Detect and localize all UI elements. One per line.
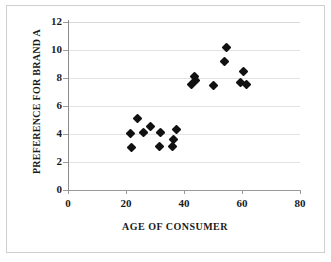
x-axis-tick-label: 20 bbox=[111, 197, 141, 209]
x-axis-tick bbox=[300, 190, 301, 194]
data-point bbox=[154, 142, 164, 152]
x-axis-tick-label: 0 bbox=[53, 197, 83, 209]
data-point bbox=[156, 128, 166, 138]
x-axis-tick bbox=[242, 190, 243, 194]
data-point bbox=[146, 121, 156, 131]
data-point bbox=[138, 128, 148, 138]
x-axis-tick bbox=[126, 190, 127, 194]
x-axis-title: AGE OF CONSUMER bbox=[40, 221, 310, 232]
data-point bbox=[127, 142, 137, 152]
x-axis-tick bbox=[68, 190, 69, 194]
x-axis-tick-label: 60 bbox=[227, 197, 257, 209]
data-point bbox=[125, 128, 135, 138]
data-point bbox=[238, 67, 248, 77]
x-axis-tick-label: 80 bbox=[285, 197, 315, 209]
scatter-plot-figure: 024681012 020406080 AGE OF CONSUMER PREF… bbox=[0, 0, 331, 262]
data-point bbox=[208, 81, 218, 91]
data-point bbox=[133, 114, 143, 124]
plot-area bbox=[68, 22, 300, 190]
data-point bbox=[221, 43, 231, 53]
y-axis-title: PREFERENCE FOR BRAND A bbox=[31, 14, 42, 190]
data-point bbox=[220, 57, 230, 67]
data-point bbox=[172, 125, 182, 135]
x-axis-tick-label: 40 bbox=[169, 197, 199, 209]
x-axis-tick bbox=[184, 190, 185, 194]
